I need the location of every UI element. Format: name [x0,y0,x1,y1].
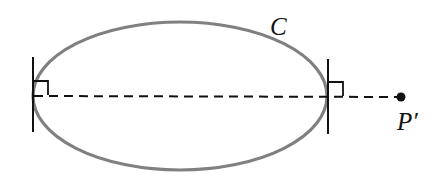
dashed-line [34,96,400,97]
curve-label: C [270,13,287,40]
point-p-prime [397,93,406,102]
right-right-angle-marker [329,82,343,96]
point-label: P′ [396,108,418,135]
diagram-canvas: C P′ [0,0,441,181]
